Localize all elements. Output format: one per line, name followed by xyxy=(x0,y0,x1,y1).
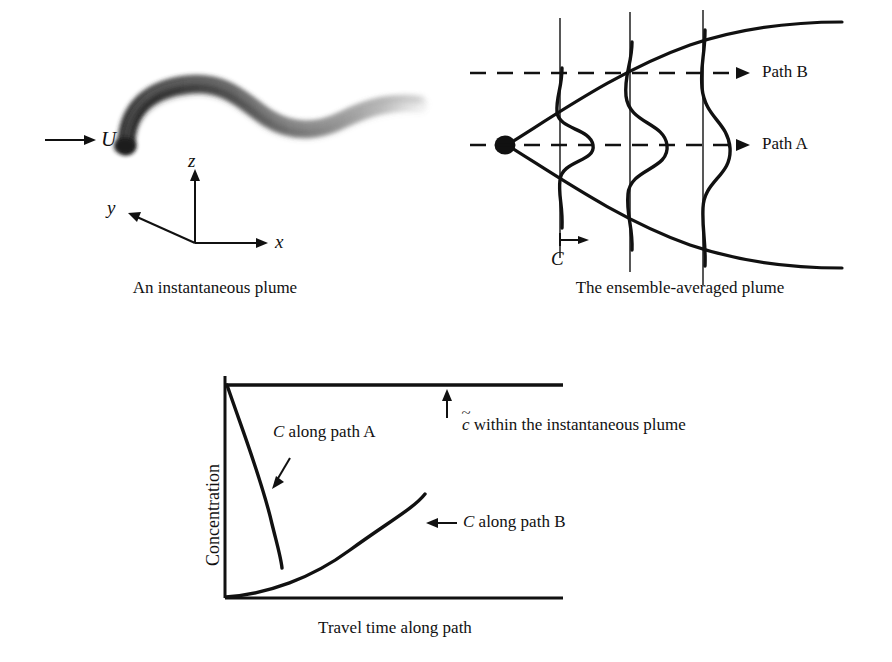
chart-xlabel: Travel time along path xyxy=(225,618,565,638)
wind-speed-label: U xyxy=(101,127,116,152)
path-a-text: along path A xyxy=(284,422,375,441)
path-b-arrowhead xyxy=(736,67,750,79)
concentration-axis-label: C xyxy=(551,248,564,270)
figure-root: U z y x An instantaneous plume xyxy=(0,0,892,662)
path-b-text: along path B xyxy=(474,512,565,531)
ensemble-plume-drawing xyxy=(450,0,892,320)
ctilde-annotation-arrow-icon xyxy=(442,389,452,418)
caption-ensemble-plume: The ensemble-averaged plume xyxy=(520,278,840,298)
axis-label-z: z xyxy=(188,150,195,172)
chart-ylabel: Concentration xyxy=(203,464,224,566)
instantaneous-plume-drawing xyxy=(0,0,450,320)
annotation-c-tilde: c within the instantaneous plume xyxy=(462,415,686,435)
annotation-c-tilde-text: within the instantaneous plume xyxy=(470,415,686,434)
series-path-b-curve xyxy=(226,494,425,597)
panel-concentration-chart: Concentration Travel time along path c w… xyxy=(0,340,892,662)
x-axis-arrowhead xyxy=(256,238,268,248)
plume-source-dot xyxy=(114,138,136,155)
panel-instantaneous-plume: U z y x An instantaneous plume xyxy=(0,0,450,320)
wind-arrow-icon xyxy=(45,135,96,145)
series-path-a-curve xyxy=(227,385,282,568)
concentration-chart-drawing xyxy=(0,340,892,662)
c-tilde-symbol: c xyxy=(462,415,470,435)
path-b-annotation-arrow-icon xyxy=(426,518,457,528)
profile-curve-3 xyxy=(702,30,731,266)
path-a-symbol: C xyxy=(273,422,284,441)
panel-ensemble-averaged-plume: Path B Path A C The ensemble-averaged pl… xyxy=(450,0,892,320)
coordinate-axes xyxy=(128,169,268,248)
plume-body xyxy=(114,81,421,155)
path-b-label: Path B xyxy=(762,62,808,82)
concentration-axis-indicator xyxy=(560,233,589,246)
label-c-along-path-a: C along path A xyxy=(273,422,375,442)
label-c-along-path-b: C along path B xyxy=(463,512,565,532)
envelope-upper xyxy=(507,22,842,145)
caption-instantaneous-plume: An instantaneous plume xyxy=(0,278,430,298)
axis-label-y: y xyxy=(107,197,115,219)
path-a-arrowhead xyxy=(736,139,750,151)
path-a-label: Path A xyxy=(762,134,808,154)
profile-curve-1 xyxy=(557,68,593,228)
path-a-annotation-arrow-icon xyxy=(272,458,290,489)
path-b-line xyxy=(470,67,750,79)
path-b-symbol: C xyxy=(463,512,474,531)
axis-label-x: x xyxy=(275,231,283,253)
